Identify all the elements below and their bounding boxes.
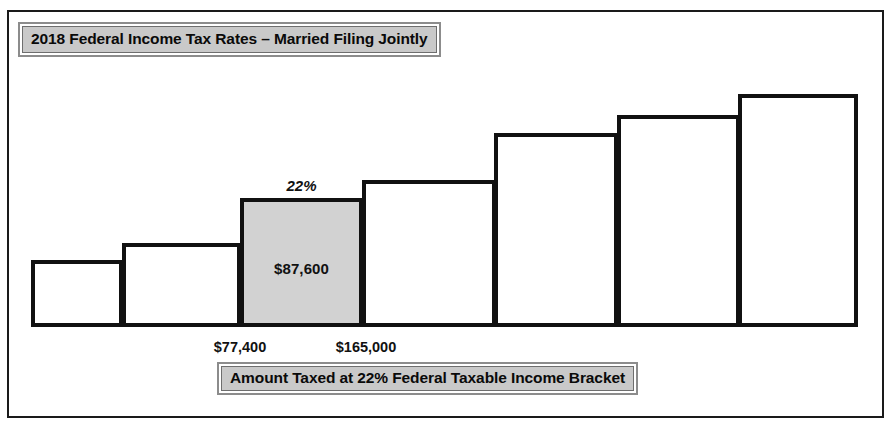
chart-title-box: 2018 Federal Income Tax Rates – Married … [18, 22, 441, 57]
chart-caption-box: Amount Taxed at 22% Federal Taxable Inco… [217, 362, 638, 395]
bar-6 [617, 115, 740, 327]
bar-4 [362, 180, 496, 327]
axis-label-upper-bound: $165,000 [306, 339, 426, 355]
chart-screenshot: $87,600 22% $77,400 $165,000 2018 Federa… [0, 0, 892, 426]
bar-3-highlighted: $87,600 [240, 198, 363, 327]
highlight-rate-label: 22% [240, 177, 363, 194]
chart-caption: Amount Taxed at 22% Federal Taxable Inco… [230, 369, 625, 387]
axis-label-lower-bound: $77,400 [180, 339, 300, 355]
bar-3-value-label: $87,600 [244, 260, 359, 277]
chart-frame: $87,600 22% $77,400 $165,000 [7, 10, 884, 418]
bar-5 [494, 133, 618, 327]
plot-area: $87,600 22% $77,400 $165,000 [9, 12, 886, 420]
bar-2 [122, 243, 241, 327]
bar-1 [31, 260, 123, 327]
page-title: 2018 Federal Income Tax Rates – Married … [31, 30, 428, 48]
bar-7 [738, 94, 858, 327]
